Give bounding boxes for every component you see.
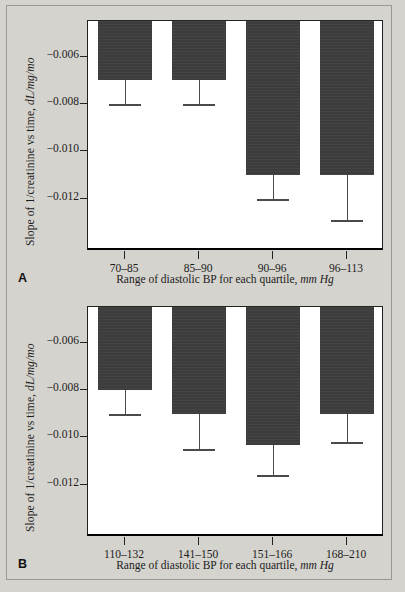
y-axis-labels-b: −0.006−0.008−0.010−0.012 [21,296,79,536]
x-axis-title-b: Range of diastolic BP for each quartile,… [60,559,390,571]
x-axis-tick [346,251,347,259]
y-axis-tick-label: −0.012 [47,191,79,202]
y-axis-tick-label: −0.008 [47,382,79,393]
y-axis-tick-label: −0.006 [47,335,79,346]
x-axis-tick [272,251,273,259]
bar [246,307,300,445]
bar [320,307,374,414]
bar [320,21,374,175]
figure-container: Slope of 1/creatinine vs time, dL/mg/mo … [0,0,405,592]
x-axis-title-b-text: Range of diastolic BP for each quartile, [116,559,297,571]
y-axis-tick [80,150,87,151]
y-axis-tick [80,56,87,57]
bar [98,21,152,80]
x-axis-title-b-units: mm Hg [300,559,334,571]
error-bar-cap [257,199,289,201]
bar [172,21,226,80]
error-bar-line [125,80,126,104]
y-axis-tick-label: −0.010 [47,143,79,154]
x-axis-title-a-text: Range of diastolic BP for each quartile, [116,273,297,285]
error-bar-line [125,390,126,414]
y-axis-tick [80,103,87,104]
x-axis-title-a-units: mm Hg [300,273,334,285]
error-bar-line [273,175,274,199]
x-axis-tick [272,537,273,545]
plot-area-b [87,306,383,536]
x-axis-tick [346,537,347,545]
x-axis-title-a: Range of diastolic BP for each quartile,… [60,273,390,285]
y-axis-tick [80,484,87,485]
error-bar-cap [257,475,289,477]
x-axis-tick [198,251,199,259]
y-axis-tick [80,198,87,199]
error-bar-cap [183,449,215,451]
panel-letter-a: A [18,271,27,285]
bar [246,21,300,175]
y-axis-tick-label: −0.006 [47,49,79,60]
x-axis-tick [198,537,199,545]
plot-area-a [87,20,383,250]
y-axis-tick-label: −0.010 [47,429,79,440]
error-bar-cap [331,442,363,444]
error-bar-line [347,414,348,442]
error-bar-cap [109,414,141,416]
bar [98,307,152,390]
error-bar-cap [109,104,141,106]
bar [172,307,226,414]
y-axis-tick-label: −0.012 [47,477,79,488]
panel-letter-b: B [18,557,27,571]
error-bar-line [273,445,274,476]
y-axis-tick [80,389,87,390]
error-bar-line [347,175,348,220]
x-axis-tick [124,537,125,545]
chart-panel-a: Slope of 1/creatinine vs time, dL/mg/mo … [0,8,405,293]
y-axis-tick [80,436,87,437]
chart-panel-b: Slope of 1/creatinine vs time, dL/mg/mo … [0,296,405,581]
x-axis-tick [124,251,125,259]
error-bar-line [199,414,200,450]
error-bar-cap [183,104,215,106]
error-bar-cap [331,220,363,222]
y-axis-tick [80,342,87,343]
error-bar-line [199,80,200,104]
y-axis-tick-label: −0.008 [47,96,79,107]
y-axis-labels-a: −0.006−0.008−0.010−0.012 [21,8,79,250]
